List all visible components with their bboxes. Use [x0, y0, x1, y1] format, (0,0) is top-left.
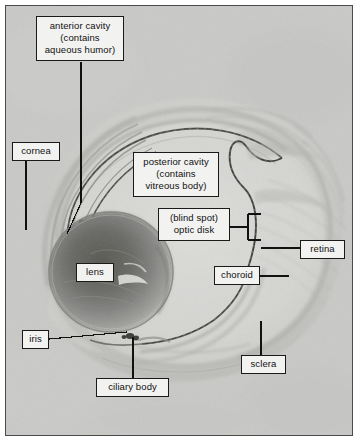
label-cornea: cornea	[12, 142, 60, 161]
label-anterior-cavity: anterior cavity (contains aqueous humor)	[36, 16, 124, 61]
label-iris: iris	[22, 330, 49, 349]
label-posterior-cavity: posterior cavity (contains vitreous body…	[133, 152, 219, 197]
label-sclera: sclera	[241, 355, 286, 374]
label-blind-spot-optic-disk: (blind spot) optic disk	[158, 208, 230, 241]
label-ciliary-body: ciliary body	[96, 378, 169, 397]
label-choroid: choroid	[214, 266, 260, 285]
label-retina: retina	[300, 240, 345, 259]
label-lens: lens	[76, 263, 114, 282]
eye-section-figure: anterior cavity (contains aqueous humor)…	[0, 0, 358, 441]
